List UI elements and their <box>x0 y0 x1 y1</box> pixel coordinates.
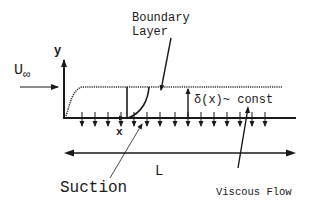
length-arrow-left-head <box>64 150 74 157</box>
suction-label: Suction <box>60 180 127 196</box>
velocity-profile-curve <box>128 87 149 118</box>
y-axis-label: y <box>54 45 61 57</box>
boundary-layer-pointer <box>161 38 171 90</box>
boundary-layer-suction-diagram: U∞ y Boundary Layer δ(x)~ const x L Suct… <box>0 0 324 208</box>
free-stream-label: U∞ <box>14 63 30 78</box>
length-arrow-right-head <box>286 150 296 157</box>
suction-pointer <box>110 124 142 178</box>
viscous-flow-label: Viscous Flow <box>216 187 292 198</box>
x-axis-label: x <box>116 127 123 138</box>
boundary-layer-label-line1: Boundary <box>132 12 190 24</box>
thickness-label: δ(x)~ const <box>194 94 273 106</box>
boundary-layer-label-line2: Layer <box>132 26 168 38</box>
length-label: L <box>155 164 163 178</box>
